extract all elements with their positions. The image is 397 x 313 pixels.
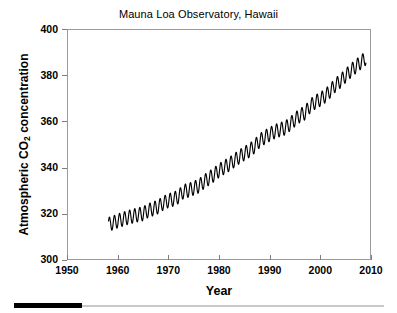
x-tick-label: 2010 [348,264,394,276]
y-tick-mark [62,260,67,261]
x-tick-label: 1970 [145,264,191,276]
x-axis-title: Year [67,284,371,298]
x-tick-label: 1990 [247,264,293,276]
y-axis-title: Atmospheric CO2 concentration [6,29,24,260]
x-tick-mark [118,255,119,260]
x-tick-label: 1950 [44,264,90,276]
chart-title: Mauna Loa Observatory, Hawaii [0,8,397,20]
co2-line-series [67,29,371,260]
x-tick-label: 1980 [196,264,242,276]
y-axis-title-post: concentration [17,53,31,136]
x-tick-mark [168,255,169,260]
x-tick-mark [371,255,372,260]
x-tick-mark [270,255,271,260]
y-axis-title-pre: Atmospheric CO [17,141,31,236]
y-tick-mark [62,75,67,76]
chart-figure: Mauna Loa Observatory, Hawaii 400 380 36… [0,0,397,313]
y-tick-mark [62,29,67,30]
x-tick-mark [320,255,321,260]
x-tick-label: 2000 [297,264,343,276]
y-tick-mark [62,168,67,169]
x-tick-mark [219,255,220,260]
x-tick-mark [67,255,68,260]
y-tick-mark [62,214,67,215]
y-axis-title-subscript: 2 [22,136,32,141]
bottom-scroll-thumb[interactable] [14,303,82,308]
x-tick-label: 1960 [95,264,141,276]
y-tick-mark [62,121,67,122]
